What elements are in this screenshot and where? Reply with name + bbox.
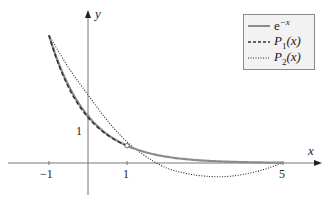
y-axis-label: y	[95, 6, 101, 22]
x-tick-label-1: 1	[123, 167, 129, 182]
x-axis-label: x	[308, 143, 314, 159]
legend-item-p2: P2(x)	[248, 50, 310, 66]
legend-label-exp: e−x	[274, 17, 290, 34]
dotted-line-icon	[248, 55, 270, 61]
legend: e−x P1(x) P2(x)	[243, 14, 315, 70]
legend-label-p1: P1(x)	[274, 33, 301, 51]
legend-item-exp: e−x	[248, 18, 310, 34]
solid-line-icon	[248, 23, 270, 29]
x-tick-label-neg1: −1	[40, 167, 53, 182]
data-point-marker	[125, 144, 129, 148]
dashed-line-icon	[248, 39, 270, 45]
x-tick-label-5: 5	[279, 167, 285, 182]
x-axis-arrow-icon	[314, 160, 322, 166]
legend-label-p2: P2(x)	[274, 49, 301, 67]
legend-item-p1: P1(x)	[248, 34, 310, 50]
y-axis-arrow-icon	[85, 10, 91, 18]
y-tick-label-1: 1	[76, 124, 82, 139]
